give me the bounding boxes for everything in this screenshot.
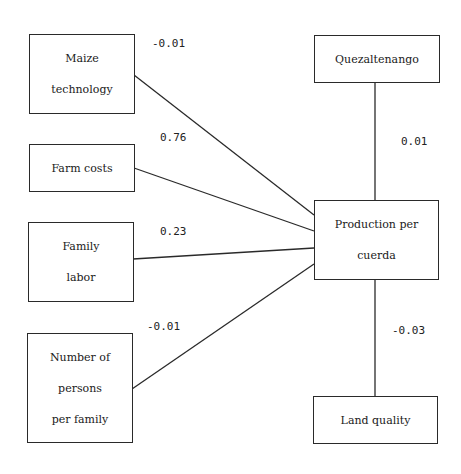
coefficient-quezaltenango: 0.01 xyxy=(401,135,428,148)
coefficient-maize-technology: -0.01 xyxy=(152,37,185,50)
edge-farm-costs xyxy=(134,168,314,231)
node-label: per family xyxy=(52,404,109,435)
node-label: Production per xyxy=(335,209,419,240)
node-production-per-cuerda: Production per cuerda xyxy=(314,200,439,280)
node-maize-technology: Maize technology xyxy=(29,34,135,114)
node-label: technology xyxy=(51,74,112,105)
edge-family-labor xyxy=(133,248,314,259)
node-label: labor xyxy=(67,262,96,293)
node-family-labor: Family labor xyxy=(28,222,134,302)
node-farm-costs: Farm costs xyxy=(29,144,135,192)
node-label: Farm costs xyxy=(51,153,112,184)
node-quezaltenango: Quezaltenango xyxy=(314,35,440,83)
node-label: Maize xyxy=(65,43,99,74)
node-label: Land quality xyxy=(341,405,411,436)
coefficient-land-quality: -0.03 xyxy=(392,324,425,337)
node-label: Number of xyxy=(50,342,110,373)
node-label: cuerda xyxy=(357,240,396,271)
coefficient-farm-costs: 0.76 xyxy=(160,131,187,144)
node-label: Quezaltenango xyxy=(335,44,419,75)
node-label: persons xyxy=(58,373,102,404)
coefficient-persons-per-family: -0.01 xyxy=(147,320,180,333)
edge-maize-technology xyxy=(134,75,314,215)
coefficient-family-labor: 0.23 xyxy=(160,225,187,238)
node-land-quality: Land quality xyxy=(313,396,438,444)
node-label: Family xyxy=(62,231,99,262)
node-persons-per-family: Number of persons per family xyxy=(27,333,133,443)
